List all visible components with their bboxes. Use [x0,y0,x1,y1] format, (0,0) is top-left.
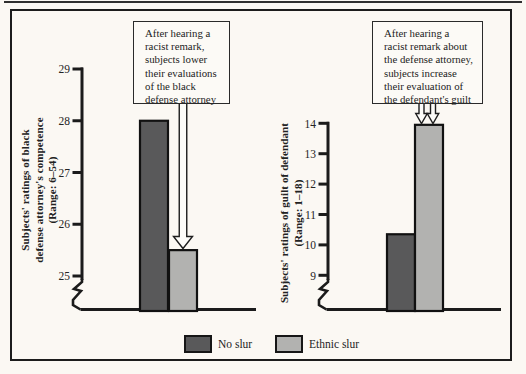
down-arrow [174,102,193,249]
no-slur-swatch [184,335,212,353]
left-bar-ethnic-slur [169,250,197,311]
right-y-tick-label: 11 [305,209,316,221]
ethnic-slur-swatch [275,335,303,353]
right-bar-no-slur [387,234,415,311]
legend-label-no-slur: No slur [218,338,252,350]
right-y-tick-label: 14 [305,118,317,130]
left-annotation-box: After hearing a racist remark, subjects … [133,21,230,104]
right-annotation-box: After hearing a racist remark about the … [372,21,483,104]
right-axis-break [319,279,328,310]
right-y-tick-label: 9 [310,270,316,282]
legend-item-no-slur: No slur [184,335,252,353]
figure: 252627282991011121314 Subjects' ratings … [0,0,526,374]
legend-item-ethnic-slur: Ethnic slur [275,335,359,353]
right-y-axis-label: Subjects' ratings of guilt of defendant … [278,93,306,333]
right-bar-ethnic-slur [415,125,443,311]
right-y-tick-label: 10 [305,239,317,251]
left-y-axis-label: Subjects' ratings of black defense attor… [19,70,61,310]
legend-label-ethnic-slur: Ethnic slur [309,338,359,350]
left-axis-break [73,279,82,310]
right-y-tick-label: 13 [305,148,317,160]
left-bar-no-slur [140,121,168,311]
right-y-tick-label: 12 [305,178,317,190]
